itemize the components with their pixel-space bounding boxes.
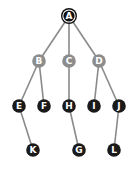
edge-e-k [19,106,33,150]
edge-d-j [99,61,119,106]
node-label: L [111,145,117,155]
node-label: G [75,145,82,155]
node-d: D [92,54,106,68]
tree-diagram-svg: ABCDEFHIJKGL [0,0,138,170]
node-b: B [32,54,46,68]
node-label: C [66,56,73,66]
edge-a-d [69,16,99,61]
node-label: D [95,56,102,66]
node-c: C [62,54,76,68]
node-i: I [87,99,101,113]
node-l: L [107,143,121,157]
node-label: A [66,11,73,21]
node-e: E [12,99,26,113]
edge-a-b [39,16,69,61]
node-label: B [36,56,43,66]
node-label: H [65,101,73,111]
node-a: A [61,8,77,24]
edge-b-e [19,61,39,106]
node-j: J [112,99,126,113]
tree-diagram: ABCDEFHIJKGL [0,0,138,170]
node-f: F [37,99,51,113]
edges-layer [19,16,119,150]
node-label: K [30,145,38,155]
node-label: J [116,101,120,111]
node-g: G [72,143,86,157]
node-label: E [16,101,22,111]
node-h: H [62,99,76,113]
node-label: F [41,101,47,111]
node-label: I [92,101,95,111]
node-k: K [26,143,40,157]
